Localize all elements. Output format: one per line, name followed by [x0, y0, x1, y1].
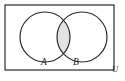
- venn-diagram-canvas: A B U: [0, 0, 125, 81]
- venn-diagram-figure: A B U: [0, 0, 125, 81]
- set-label-b: B: [73, 57, 79, 67]
- universal-set-label: U: [112, 64, 119, 74]
- set-label-a: A: [40, 57, 47, 67]
